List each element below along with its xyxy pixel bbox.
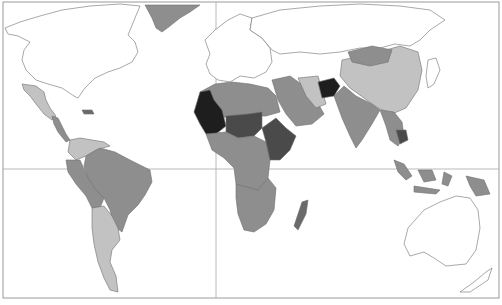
map-canvas xyxy=(0,0,502,305)
region-caribbean xyxy=(82,110,94,114)
world-choropleth-map xyxy=(0,0,502,305)
